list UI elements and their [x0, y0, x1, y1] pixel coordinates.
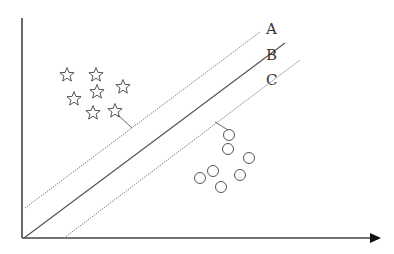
circle-class-points	[195, 130, 255, 193]
star-icon	[60, 68, 74, 82]
star-icon	[86, 106, 100, 120]
circle-icon	[195, 173, 206, 184]
star-icon	[89, 68, 103, 82]
circle-icon	[235, 170, 246, 181]
support-connector	[215, 122, 228, 130]
label-b: B	[266, 46, 277, 64]
circle-icon	[208, 166, 219, 177]
star-icon	[67, 92, 81, 106]
star-class-points	[60, 68, 130, 120]
star-icon	[108, 104, 122, 118]
circle-icon	[216, 182, 227, 193]
line-labels: ABC	[265, 20, 277, 89]
circle-icon	[223, 144, 234, 155]
svm-diagram: ABC	[0, 0, 394, 254]
star-icon	[116, 80, 130, 94]
line-a	[25, 32, 260, 208]
support-connectors	[118, 115, 228, 130]
hyperplane-lines	[24, 32, 300, 238]
label-a: A	[265, 20, 277, 38]
axes	[22, 18, 381, 243]
line-c	[64, 60, 300, 238]
circle-icon	[244, 153, 255, 164]
x-axis-arrow-icon	[370, 233, 381, 243]
label-c: C	[266, 71, 277, 89]
circle-icon	[224, 130, 235, 141]
star-icon	[90, 85, 104, 99]
support-connector	[118, 115, 132, 128]
